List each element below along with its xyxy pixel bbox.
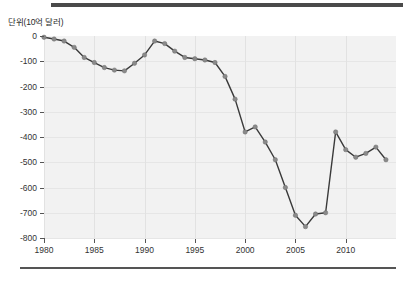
data-point-marker <box>102 65 106 69</box>
data-point-marker <box>142 53 146 57</box>
data-point-marker <box>203 58 207 62</box>
x-axis-tick-mark <box>44 239 45 243</box>
data-point-marker <box>263 140 267 144</box>
y-axis-tick-label: -800 <box>20 233 37 243</box>
x-axis-tick-label: 1995 <box>175 245 215 255</box>
y-axis-tick-mark <box>40 162 44 163</box>
x-axis-tick-mark <box>94 239 95 243</box>
data-point-marker <box>283 185 287 189</box>
data-point-marker <box>323 211 327 215</box>
x-axis-tick-mark <box>145 239 146 243</box>
chart-series-layer <box>0 0 414 281</box>
data-point-marker <box>152 39 156 43</box>
data-point-marker <box>233 97 237 101</box>
y-axis-tick-label: -500 <box>20 157 37 167</box>
y-axis-tick-label: -200 <box>20 82 37 92</box>
data-point-marker <box>303 224 307 228</box>
data-point-marker <box>243 130 247 134</box>
data-point-marker <box>132 61 136 65</box>
y-axis-tick-mark <box>40 87 44 88</box>
data-point-marker <box>223 74 227 78</box>
y-axis-tick-mark <box>40 188 44 189</box>
bottom-divider-rule <box>20 267 396 269</box>
data-point-marker <box>374 145 378 149</box>
data-point-marker <box>213 60 217 64</box>
data-point-marker <box>72 45 76 49</box>
x-axis-tick-mark <box>346 239 347 243</box>
data-point-marker <box>354 155 358 159</box>
y-axis-tick-label: -400 <box>20 132 37 142</box>
x-axis-tick-label: 1990 <box>125 245 165 255</box>
data-point-marker <box>62 39 66 43</box>
data-point-marker <box>273 158 277 162</box>
data-point-marker <box>333 130 337 134</box>
x-axis-tick-mark <box>245 239 246 243</box>
data-point-marker <box>52 37 56 41</box>
y-axis-tick-mark <box>40 112 44 113</box>
x-axis-tick-mark <box>195 239 196 243</box>
y-axis-tick-mark <box>40 61 44 62</box>
data-point-marker <box>122 69 126 73</box>
x-axis-tick-label: 2005 <box>275 245 315 255</box>
data-point-marker <box>82 55 86 59</box>
data-point-marker <box>112 68 116 72</box>
y-axis-tick-label: -300 <box>20 107 37 117</box>
y-axis-tick-label: 0 <box>32 31 37 41</box>
chart-plot-wrapper: 0-100-200-300-400-500-600-700-8001980198… <box>0 0 414 281</box>
data-point-marker <box>344 147 348 151</box>
data-point-marker <box>173 49 177 53</box>
data-point-marker <box>384 158 388 162</box>
data-point-marker <box>183 55 187 59</box>
y-axis-tick-mark <box>40 213 44 214</box>
x-axis-tick-label: 1985 <box>74 245 114 255</box>
data-point-marker <box>193 57 197 61</box>
x-axis-tick-label: 1980 <box>24 245 64 255</box>
y-axis-tick-label: -100 <box>20 56 37 66</box>
data-point-marker <box>162 41 166 45</box>
y-axis-tick-label: -600 <box>20 183 37 193</box>
x-axis-tick-label: 2000 <box>225 245 265 255</box>
data-point-marker <box>364 151 368 155</box>
y-axis-tick-mark <box>40 137 44 138</box>
x-axis-tick-mark <box>295 239 296 243</box>
y-axis-tick-label: -700 <box>20 208 37 218</box>
data-point-marker <box>92 60 96 64</box>
data-point-marker <box>253 125 257 129</box>
y-axis-tick-mark <box>40 36 44 37</box>
data-point-marker <box>293 213 297 217</box>
x-axis-tick-label: 2010 <box>326 245 366 255</box>
data-point-marker <box>313 212 317 216</box>
